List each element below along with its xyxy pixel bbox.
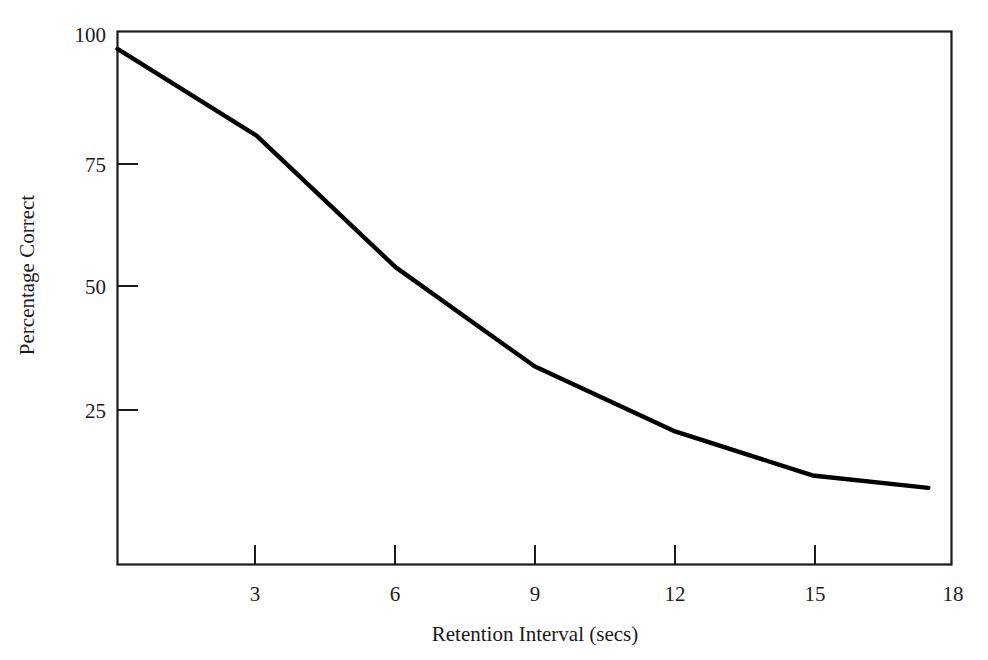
x-tick-label-9: 9 (530, 582, 541, 606)
y-axis-title: Percentage Correct (15, 195, 39, 355)
chart-background (0, 0, 988, 660)
y-tick-label-100: 100 (75, 23, 107, 47)
line-chart: 100 75 50 25 3 6 9 12 15 18 Retention In… (0, 0, 988, 660)
x-axis-title: Retention Interval (secs) (432, 622, 638, 646)
x-tick-label-15: 15 (805, 582, 826, 606)
y-tick-label-50: 50 (85, 275, 106, 299)
y-tick-label-75: 75 (85, 153, 106, 177)
chart-container: 100 75 50 25 3 6 9 12 15 18 Retention In… (0, 0, 988, 660)
x-tick-label-3: 3 (250, 582, 261, 606)
x-tick-label-12: 12 (665, 582, 686, 606)
x-tick-label-6: 6 (390, 582, 401, 606)
y-tick-label-25: 25 (85, 399, 106, 423)
x-tick-label-18: 18 (943, 582, 964, 606)
